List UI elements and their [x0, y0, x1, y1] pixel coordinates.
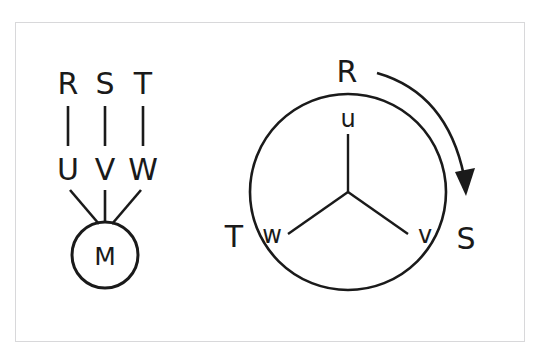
motor-label: M [94, 242, 116, 271]
figure-page: 三相誘導電動機の回転方向と結線図 R S T U V W [0, 0, 540, 361]
phase-label-S: S [456, 221, 475, 256]
supply-terminal-label-S: S [95, 66, 114, 101]
phase-label-T: T [224, 219, 244, 254]
winding-label-v: v [418, 221, 432, 249]
winding-w-line [288, 192, 348, 234]
motor-terminal-label-W: W [128, 152, 158, 187]
motor-terminal-label-U: U [57, 152, 79, 187]
lead-W-to-motor [112, 190, 141, 224]
supply-terminal-label-R: R [58, 66, 79, 101]
rotation-arrow-head [455, 168, 475, 196]
phase-label-R: R [337, 54, 358, 89]
motor-terminal-label-V: V [95, 152, 116, 187]
winding-label-w: w [262, 221, 282, 249]
winding-v-line [348, 192, 408, 234]
left-diagram: R S T U V W M [57, 66, 158, 288]
lead-U-to-motor [70, 190, 99, 224]
winding-label-u: u [340, 105, 355, 133]
right-diagram: u w v R S T [224, 54, 476, 290]
supply-terminal-label-T: T [133, 66, 153, 101]
figure-canvas: R S T U V W M [0, 0, 540, 361]
